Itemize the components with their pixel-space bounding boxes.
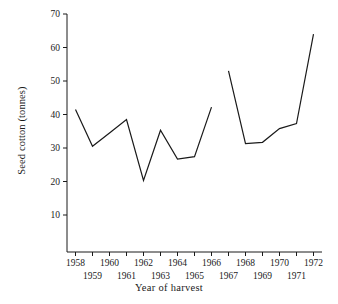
data-line-segment-1: [76, 107, 212, 180]
axis-lines: [67, 14, 322, 252]
y-axis-tick-label: 30: [34, 143, 60, 153]
data-line-segment-2: [229, 34, 314, 144]
y-axis-tick-label: 70: [34, 9, 60, 19]
x-axis-tick-label: 1959: [83, 271, 102, 281]
x-axis-tick-label: 1960: [100, 258, 119, 268]
y-axis-tick-label: 40: [34, 110, 60, 120]
chart-figure: Seed cotton (tonnes) 10203040506070 1958…: [0, 0, 338, 304]
x-axis-ticks: [76, 252, 314, 256]
x-axis-tick-label: 1972: [304, 258, 323, 268]
x-axis-tick-label: 1963: [151, 271, 170, 281]
x-axis-tick-label: 1968: [236, 258, 255, 268]
x-axis-tick-label: 1970: [270, 258, 289, 268]
y-axis-tick-label: 50: [34, 76, 60, 86]
x-axis-tick-label: 1958: [66, 258, 85, 268]
x-axis-title: Year of harvest: [0, 282, 338, 293]
x-axis-tick-label: 1971: [287, 271, 306, 281]
x-axis-tick-label: 1966: [202, 258, 221, 268]
y-axis-tick-label: 60: [34, 43, 60, 53]
x-axis-tick-label: 1969: [253, 271, 272, 281]
x-axis-tick-label: 1965: [185, 271, 204, 281]
x-axis-tick-label: 1961: [117, 271, 136, 281]
x-axis-tick-label: 1964: [168, 258, 187, 268]
y-axis-ticks: [63, 14, 67, 215]
x-axis-tick-label: 1967: [219, 271, 238, 281]
y-axis-tick-label: 10: [34, 210, 60, 220]
y-axis-tick-label: 20: [34, 177, 60, 187]
x-axis-tick-label: 1962: [134, 258, 153, 268]
data-series: [76, 34, 314, 180]
